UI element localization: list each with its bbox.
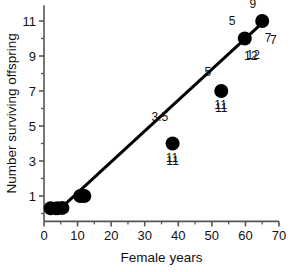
x-tick-label: 60 [238, 228, 252, 243]
y-tick-label: 5 [29, 119, 36, 134]
x-tick-label: 50 [205, 228, 219, 243]
y-tick-label: 1 [29, 189, 36, 204]
x-tick-label: 10 [70, 228, 84, 243]
y-tick-label: 11 [23, 14, 37, 29]
annotation-label: 5 [204, 65, 211, 79]
annotation-label: 5 [229, 14, 236, 28]
data-point [77, 189, 91, 203]
x-tick-label: 20 [104, 228, 118, 243]
data-point [55, 201, 69, 215]
chart-canvas: 1111127957125113.511 1357911010203040506… [0, 0, 295, 272]
annotation-label: 11 [214, 98, 227, 112]
y-tick-label: 7 [29, 84, 36, 99]
data-point [255, 14, 269, 28]
x-axis-title: Female years [121, 250, 203, 265]
x-tick-label: 30 [137, 228, 151, 243]
annotation-label: 3.5 [151, 110, 168, 124]
y-tick-label: 9 [29, 49, 36, 64]
y-axis-title: Number surviving offspring [4, 33, 19, 193]
data-point [166, 137, 180, 151]
x-tick-label: 70 [272, 228, 286, 243]
annotation-label: 7 [270, 33, 277, 47]
x-tick-label: 0 [40, 228, 47, 243]
annotation-label: 9 [249, 0, 256, 11]
scatter-chart: 1111127957125113.511 1357911010203040506… [0, 0, 295, 272]
x-tick-label: 40 [171, 228, 185, 243]
data-point [214, 84, 228, 98]
annotation-label: 12 [246, 48, 260, 62]
data-point [238, 32, 252, 46]
y-tick-label: 3 [29, 154, 36, 169]
annotation-label: 11 [166, 151, 179, 165]
